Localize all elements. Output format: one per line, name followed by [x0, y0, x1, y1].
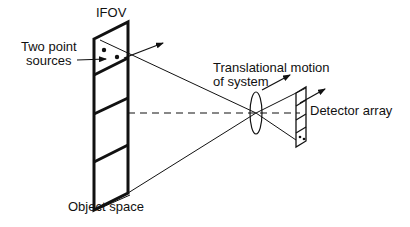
two-point-sources-label-line1: Two point	[21, 40, 77, 54]
point-sources-leader-arrow	[77, 59, 106, 60]
detector-image-point-1	[299, 136, 302, 139]
lower-ray	[128, 113, 256, 193]
detector-array-label: Detector array	[310, 104, 392, 118]
detector-image-point-2	[303, 138, 306, 141]
translational-motion-label-line2: of system	[213, 75, 269, 89]
detector-motion-arrow	[300, 89, 325, 103]
object-cell-divider-1	[94, 58, 128, 75]
point-source-1	[102, 48, 106, 52]
object-cell-divider-3	[94, 145, 128, 162]
ifov-label: IFOV	[96, 6, 126, 20]
object-motion-arrow	[124, 43, 163, 58]
translational-motion-label-line1: Translational motion	[213, 61, 330, 75]
two-point-sources-label-line2: sources	[26, 54, 72, 68]
object-strip	[94, 22, 130, 210]
object-space-label: Object space	[68, 200, 144, 214]
object-cell-divider-2	[94, 98, 128, 114]
image-lower-ray	[256, 113, 296, 140]
point-source-2	[115, 55, 119, 59]
